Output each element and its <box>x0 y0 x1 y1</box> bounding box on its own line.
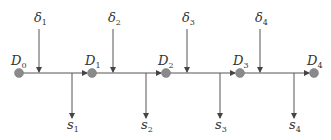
node-label-d0: D0 <box>10 53 27 70</box>
flow-diagram: D0 D1 D2 D3 D4 δ1 δ2 δ3 δ4 s1 s2 s3 s4 <box>0 0 331 140</box>
input-label-delta2: δ2 <box>108 10 121 27</box>
node-label-d4: D4 <box>306 53 323 70</box>
output-label-s3: s3 <box>215 117 227 134</box>
node-label-d2: D2 <box>157 53 174 70</box>
output-label-s1: s1 <box>67 117 79 134</box>
output-label-s4: s4 <box>289 117 301 134</box>
node-label-d1: D1 <box>84 53 101 70</box>
input-label-delta4: δ4 <box>255 10 268 27</box>
output-label-s2: s2 <box>141 117 153 134</box>
input-label-delta1: δ1 <box>34 10 47 27</box>
node-label-d3: D3 <box>232 53 249 70</box>
input-label-delta3: δ3 <box>182 10 195 27</box>
